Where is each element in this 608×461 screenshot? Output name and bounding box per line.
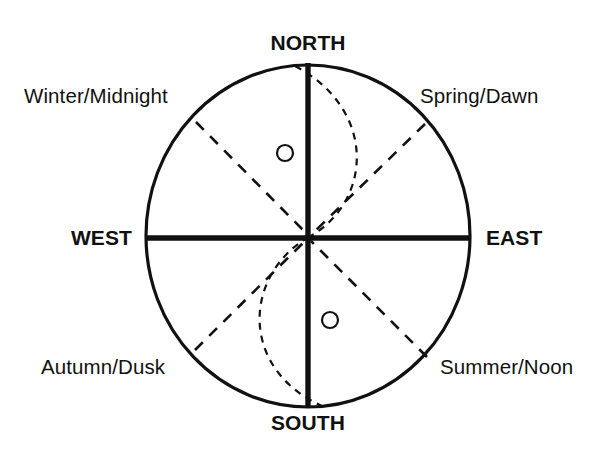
diagonal-dashed-southwest <box>195 241 305 350</box>
diagonal-dashed-southeast <box>311 241 427 357</box>
marker-lower-circle <box>322 312 338 328</box>
marker-upper-circle <box>277 145 293 161</box>
diagonal-dashed-northeast <box>311 124 425 235</box>
label-winter-midnight: Winter/Midnight <box>24 86 168 107</box>
s-curve-lower-arc <box>260 237 322 406</box>
label-south: SOUTH <box>271 412 345 433</box>
s-curve-upper-arc <box>295 66 357 237</box>
label-summer-noon: Summer/Noon <box>440 357 573 378</box>
label-west: WEST <box>71 227 132 248</box>
label-north: NORTH <box>270 32 345 53</box>
label-autumn-dusk: Autumn/Dusk <box>41 357 165 378</box>
label-east: EAST <box>486 227 542 248</box>
diagram-canvas: NORTH SOUTH WEST EAST Winter/Midnight Sp… <box>0 0 608 461</box>
diagonal-dashed-northwest <box>196 122 306 233</box>
label-spring-dawn: Spring/Dawn <box>420 86 538 107</box>
